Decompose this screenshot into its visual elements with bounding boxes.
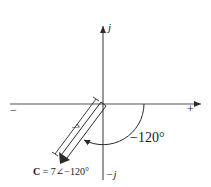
imag-negative-label: −j xyxy=(106,169,116,180)
real-negative-label: − xyxy=(10,104,17,116)
phasor-caption-value: = 7∠−120° xyxy=(40,166,89,177)
angle-label: −120° xyxy=(130,131,165,145)
real-positive-label: + xyxy=(187,103,194,115)
phasor-caption: C = 7∠−120° xyxy=(33,167,89,177)
phasor-diagram-graphics xyxy=(0,0,211,187)
phasor-c-arrow xyxy=(59,102,106,164)
imag-positive-label: j xyxy=(108,22,111,33)
phasor-diagram: j −j − + −120° 7 C = 7∠−120° xyxy=(0,0,211,187)
